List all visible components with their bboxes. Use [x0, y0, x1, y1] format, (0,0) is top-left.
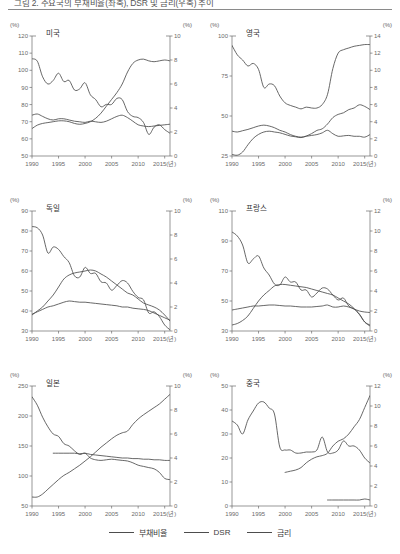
chart-us: 5060708090100110120024681019901995200020…	[0, 14, 200, 189]
svg-text:4: 4	[374, 288, 378, 294]
chart-title-china: 중국	[246, 377, 260, 388]
svg-text:1995: 1995	[252, 511, 266, 517]
svg-text:60: 60	[21, 268, 28, 274]
svg-text:8: 8	[374, 248, 378, 254]
svg-text:1990: 1990	[225, 161, 239, 167]
svg-text:2000: 2000	[78, 511, 92, 517]
svg-text:1990: 1990	[25, 161, 39, 167]
svg-text:90: 90	[21, 85, 28, 91]
legend-label: DSR	[214, 528, 231, 537]
svg-text:2005: 2005	[105, 161, 119, 167]
svg-text:1990: 1990	[225, 336, 239, 342]
svg-text:10: 10	[374, 228, 381, 234]
svg-text:70: 70	[221, 268, 228, 274]
svg-text:2: 2	[174, 129, 178, 135]
svg-text:20: 20	[221, 455, 228, 461]
unit-right-label: (%)	[383, 22, 392, 28]
svg-text:4: 4	[174, 455, 178, 461]
figure-title: 그림 2. 주요국의 부채비율(좌축), DSR 및 금리(우축) 추이	[14, 0, 214, 8]
svg-text:6: 6	[374, 268, 378, 274]
svg-text:8: 8	[374, 85, 378, 91]
svg-text:8: 8	[174, 407, 178, 413]
svg-text:200: 200	[18, 413, 29, 419]
svg-text:100: 100	[218, 33, 229, 39]
chart-title-france: 프랑스	[246, 202, 267, 213]
svg-text:50: 50	[221, 383, 228, 389]
svg-text:120: 120	[18, 33, 29, 39]
legend-label: 금리	[277, 527, 291, 538]
svg-text:70: 70	[21, 119, 28, 125]
svg-text:10: 10	[174, 208, 181, 214]
chart-japan: 5010015020025002468101990199520002005201…	[0, 364, 200, 539]
svg-text:2: 2	[374, 483, 378, 489]
legend-line-icon	[109, 532, 134, 533]
svg-text:50: 50	[221, 113, 228, 119]
svg-text:2010: 2010	[131, 161, 145, 167]
chart-row-1: 5060708090100110120024681019901995200020…	[0, 14, 400, 189]
svg-text:12: 12	[374, 50, 381, 56]
svg-text:90: 90	[221, 238, 228, 244]
svg-text:50: 50	[21, 503, 28, 509]
chart-uk: 2550751000246810121419901995200020052010…	[200, 14, 400, 189]
legend: 부채비율 DSR 금리	[0, 527, 400, 538]
svg-text:2000: 2000	[278, 511, 292, 517]
svg-text:2010: 2010	[131, 511, 145, 517]
svg-text:2000: 2000	[78, 161, 92, 167]
svg-text:50: 50	[21, 153, 28, 159]
legend-item-debt-ratio: 부채비율	[109, 527, 167, 538]
svg-text:2: 2	[374, 136, 378, 142]
svg-text:2: 2	[174, 479, 178, 485]
unit-right-label: (%)	[183, 372, 192, 378]
svg-text:1990: 1990	[25, 511, 39, 517]
svg-text:8: 8	[374, 423, 378, 429]
svg-text:100: 100	[18, 67, 29, 73]
svg-text:0: 0	[174, 503, 178, 509]
legend-label: 부채비율	[139, 527, 167, 538]
svg-text:2005: 2005	[305, 511, 319, 517]
svg-text:150: 150	[18, 443, 29, 449]
svg-text:2000: 2000	[278, 161, 292, 167]
legend-line-icon	[184, 532, 209, 533]
svg-text:1990: 1990	[225, 511, 239, 517]
svg-text:4: 4	[174, 105, 178, 111]
chart-germany: 3040506070809002468101990199520002005201…	[0, 189, 200, 364]
svg-text:8: 8	[174, 232, 178, 238]
svg-text:2: 2	[374, 308, 378, 314]
svg-text:1995: 1995	[252, 336, 266, 342]
chart-cell-uk: 2550751000246810121419901995200020052010…	[200, 14, 400, 189]
svg-text:0: 0	[174, 153, 178, 159]
svg-text:4: 4	[374, 463, 378, 469]
svg-text:80: 80	[21, 228, 28, 234]
svg-text:10: 10	[374, 67, 381, 73]
legend-item-interest-rate: 금리	[247, 527, 291, 538]
chart-cell-france: 3050709011002468101219901995200020052010…	[200, 189, 400, 364]
chart-title-japan: 일본	[46, 377, 60, 388]
svg-text:2005: 2005	[305, 336, 319, 342]
svg-text:12: 12	[374, 208, 381, 214]
chart-title-uk: 영국	[246, 27, 260, 38]
svg-text:0: 0	[374, 328, 378, 334]
svg-text:0: 0	[374, 153, 378, 159]
svg-text:6: 6	[174, 81, 178, 87]
svg-text:4: 4	[174, 280, 178, 286]
svg-text:1995: 1995	[52, 161, 66, 167]
legend-item-dsr: DSR	[184, 528, 231, 537]
chart-grid: 5060708090100110120024681019901995200020…	[0, 14, 400, 539]
unit-right-label: (%)	[183, 197, 192, 203]
svg-text:2015(년): 2015(년)	[153, 335, 176, 342]
svg-text:30: 30	[221, 328, 228, 334]
svg-text:1995: 1995	[52, 511, 66, 517]
unit-left-label: (%)	[210, 197, 219, 203]
chart-france: 3050709011002468101219901995200020052010…	[200, 189, 400, 364]
svg-text:2010: 2010	[331, 161, 345, 167]
chart-title-us: 미국	[46, 27, 60, 38]
svg-text:2010: 2010	[331, 511, 345, 517]
svg-text:2015(년): 2015(년)	[353, 335, 376, 342]
svg-text:10: 10	[174, 33, 181, 39]
svg-text:70: 70	[21, 248, 28, 254]
chart-cell-japan: 5010015020025002468101990199520002005201…	[0, 364, 200, 539]
svg-text:250: 250	[18, 383, 29, 389]
svg-text:10: 10	[374, 403, 381, 409]
svg-text:90: 90	[21, 208, 28, 214]
svg-text:2005: 2005	[105, 511, 119, 517]
